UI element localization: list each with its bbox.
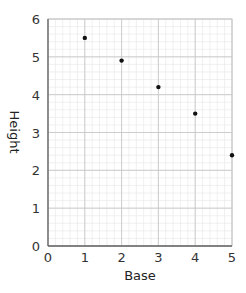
x-tick-label: 4 xyxy=(191,250,199,265)
y-tick-label: 0 xyxy=(32,239,40,254)
x-axis-title: Base xyxy=(124,268,156,283)
y-tick-label: 5 xyxy=(32,50,40,65)
y-axis-tick-labels: 0123456 xyxy=(32,12,40,254)
data-point xyxy=(119,58,123,62)
data-point xyxy=(230,153,234,157)
y-tick-label: 2 xyxy=(32,163,40,178)
data-point xyxy=(83,36,87,40)
x-tick-label: 3 xyxy=(154,250,162,265)
y-tick-label: 6 xyxy=(32,12,40,27)
x-tick-label: 1 xyxy=(81,250,89,265)
x-tick-label: 0 xyxy=(44,250,52,265)
x-tick-label: 5 xyxy=(228,250,236,265)
data-point xyxy=(156,85,160,89)
x-axis-tick-labels: 012345 xyxy=(44,250,236,265)
y-tick-label: 4 xyxy=(32,88,40,103)
data-point xyxy=(193,111,197,115)
scatter-chart: 0123456 012345 Base Height xyxy=(0,0,246,293)
y-axis-title: Height xyxy=(7,111,22,154)
x-tick-label: 2 xyxy=(117,250,125,265)
major-gridlines xyxy=(48,19,232,246)
y-tick-label: 3 xyxy=(32,126,40,141)
y-tick-label: 1 xyxy=(32,201,40,216)
